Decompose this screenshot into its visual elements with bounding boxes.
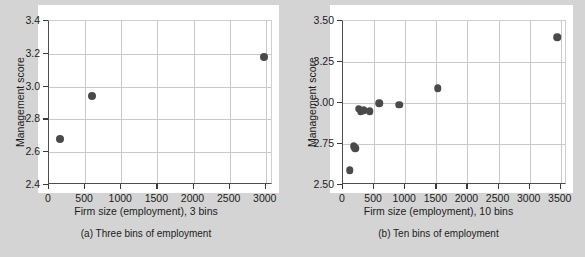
x-axis-title-b: Firm size (employment), 10 bins xyxy=(292,205,585,217)
x-tick-label-a: 3000 xyxy=(253,192,276,204)
data-point-b-9 xyxy=(434,84,442,92)
x-tick-mark-a xyxy=(265,184,266,189)
gridline-vertical-b xyxy=(530,21,531,183)
y-tick-label-b: 3.00 xyxy=(314,96,334,108)
y-tick-label-a: 2.8 xyxy=(25,112,40,124)
x-tick-label-a: 1500 xyxy=(145,192,168,204)
x-tick-mark-a xyxy=(229,184,230,189)
x-tick-mark-b xyxy=(373,184,374,189)
x-tick-mark-b xyxy=(560,184,561,189)
x-tick-label-b: 3500 xyxy=(548,192,571,204)
data-point-b-2 xyxy=(351,144,359,152)
gridline-vertical-b xyxy=(467,21,468,183)
gridline-horizontal-a xyxy=(49,87,271,88)
x-tick-label-b: 0 xyxy=(339,192,345,204)
y-tick-label-b: 3.25 xyxy=(314,55,334,67)
y-tick-label-b: 2.75 xyxy=(314,137,334,149)
gridline-vertical-b xyxy=(436,21,437,183)
x-tick-mark-a xyxy=(120,184,121,189)
x-tick-mark-b xyxy=(342,184,343,189)
panel-b-ten-bins: Management score Firm size (employment),… xyxy=(292,0,585,257)
panel-a-three-bins: Management score Firm size (employment),… xyxy=(0,0,292,257)
plot-area-a xyxy=(48,20,272,184)
y-tick-label-a: 2.4 xyxy=(25,178,40,190)
gridline-vertical-a xyxy=(266,21,267,183)
y-tick-mark-a xyxy=(43,20,48,21)
y-tick-mark-a xyxy=(43,86,48,87)
y-tick-label-b: 2.50 xyxy=(314,178,334,190)
y-tick-mark-b xyxy=(337,102,342,103)
data-point-a-2 xyxy=(260,53,268,61)
y-tick-mark-b xyxy=(337,61,342,62)
gridline-vertical-a xyxy=(157,21,158,183)
figure-two-panel-scatter: Management score Firm size (employment),… xyxy=(0,0,585,257)
gridline-horizontal-b xyxy=(343,144,565,145)
y-tick-mark-a xyxy=(43,118,48,119)
y-tick-mark-b xyxy=(337,20,342,21)
y-tick-label-a: 3.2 xyxy=(25,47,40,59)
x-tick-mark-a xyxy=(156,184,157,189)
gridline-vertical-a xyxy=(85,21,86,183)
gridline-horizontal-a xyxy=(49,119,271,120)
x-tick-mark-b xyxy=(435,184,436,189)
caption-a: (a) Three bins of employment xyxy=(0,228,292,239)
x-tick-label-a: 2000 xyxy=(181,192,204,204)
y-tick-label-a: 3.0 xyxy=(25,80,40,92)
x-tick-label-a: 500 xyxy=(75,192,93,204)
gridline-vertical-b xyxy=(405,21,406,183)
x-tick-mark-b xyxy=(404,184,405,189)
data-point-b-7 xyxy=(375,99,383,107)
x-tick-label-b: 2000 xyxy=(455,192,478,204)
x-tick-label-a: 0 xyxy=(45,192,51,204)
y-tick-mark-b xyxy=(337,143,342,144)
x-tick-mark-b xyxy=(466,184,467,189)
x-tick-mark-a xyxy=(84,184,85,189)
x-axis-title-a: Firm size (employment), 3 bins xyxy=(0,205,292,217)
gridline-vertical-a xyxy=(121,21,122,183)
x-tick-mark-b xyxy=(529,184,530,189)
x-tick-label-b: 1000 xyxy=(393,192,416,204)
data-point-a-1 xyxy=(88,92,96,100)
x-tick-mark-a xyxy=(48,184,49,189)
data-point-b-10 xyxy=(553,34,561,42)
x-tick-mark-b xyxy=(498,184,499,189)
gridline-vertical-b xyxy=(499,21,500,183)
caption-b: (b) Ten bins of employment xyxy=(292,228,585,239)
gridline-vertical-b xyxy=(561,21,562,183)
data-point-b-8 xyxy=(395,101,403,109)
x-tick-label-a: 2500 xyxy=(217,192,240,204)
data-point-b-6 xyxy=(366,107,374,115)
data-point-b-0 xyxy=(346,166,354,174)
data-point-a-0 xyxy=(56,135,64,143)
gridline-horizontal-a xyxy=(49,152,271,153)
y-tick-label-a: 3.4 xyxy=(25,14,40,26)
y-tick-mark-a xyxy=(43,53,48,54)
x-tick-label-b: 500 xyxy=(364,192,382,204)
y-tick-label-b: 3.50 xyxy=(314,14,334,26)
gridline-horizontal-b xyxy=(343,62,565,63)
plot-area-b xyxy=(342,20,566,184)
x-tick-mark-a xyxy=(193,184,194,189)
x-tick-label-b: 2500 xyxy=(486,192,509,204)
x-tick-label-b: 3000 xyxy=(517,192,540,204)
gridline-vertical-a xyxy=(194,21,195,183)
x-tick-label-a: 1000 xyxy=(109,192,132,204)
gridline-vertical-a xyxy=(230,21,231,183)
y-tick-label-a: 2.6 xyxy=(25,145,40,157)
y-tick-mark-a xyxy=(43,151,48,152)
x-tick-label-b: 1500 xyxy=(424,192,447,204)
gridline-horizontal-a xyxy=(49,54,271,55)
y-axis-title-a: Management score xyxy=(14,57,26,147)
